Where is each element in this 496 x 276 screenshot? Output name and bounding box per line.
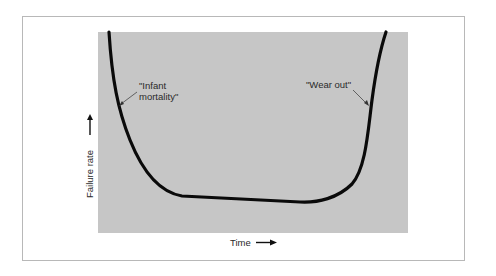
y-axis-label: Failure rate: [84, 150, 95, 198]
up-arrow-icon-head: [87, 114, 93, 120]
infant-mortality-label: "Infant: [139, 80, 167, 91]
bathtub-chart: "Infant mortality" "Wear out" Failure ra…: [0, 0, 496, 276]
plot-area: [98, 32, 408, 233]
wear-out-label: "Wear out": [306, 79, 351, 90]
x-axis-label: Time: [230, 237, 251, 248]
infant-mortality-label-2: mortality": [139, 91, 178, 102]
right-arrow-icon-head: [270, 240, 277, 246]
